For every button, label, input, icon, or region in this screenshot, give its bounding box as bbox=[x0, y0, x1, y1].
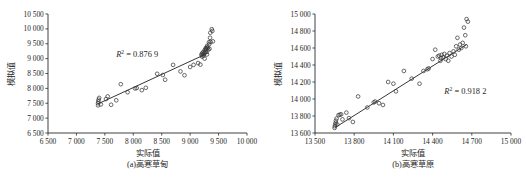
r-squared-annotation: R2 = 0.876 9 bbox=[115, 49, 158, 59]
x-axis-tick-label: 14 400 bbox=[422, 137, 443, 146]
x-axis-title: 实际值 bbox=[401, 148, 425, 158]
x-axis-tick-label: 8 000 bbox=[125, 137, 142, 146]
axis-spines bbox=[48, 14, 247, 133]
data-point bbox=[377, 101, 381, 105]
x-axis-tick-label: 9 500 bbox=[210, 137, 227, 146]
y-axis-tick-label: 10 500 bbox=[23, 10, 44, 19]
data-point bbox=[433, 48, 437, 52]
data-point bbox=[192, 63, 196, 67]
x-axis-tick-label: 14 700 bbox=[462, 137, 483, 146]
data-point bbox=[119, 82, 123, 86]
y-axis-tick-label: 13 800 bbox=[290, 112, 311, 121]
data-point bbox=[463, 33, 467, 37]
data-point bbox=[356, 95, 360, 99]
data-point bbox=[392, 82, 396, 86]
data-point bbox=[402, 69, 406, 73]
y-axis-tick-label: 14 800 bbox=[290, 27, 311, 36]
y-axis-tick-label: 14 600 bbox=[290, 44, 311, 53]
data-point bbox=[394, 90, 398, 94]
data-point bbox=[431, 57, 435, 61]
data-point bbox=[155, 72, 159, 76]
y-axis-tick-label: 9 000 bbox=[27, 54, 44, 63]
y-axis-tick-label: 14 200 bbox=[290, 78, 311, 87]
x-axis-tick-label: 10 000 bbox=[237, 137, 258, 146]
x-axis-title: 实际值 bbox=[136, 148, 160, 158]
axis-spines bbox=[315, 14, 511, 133]
data-point bbox=[454, 44, 458, 48]
y-axis-tick-label: 14 000 bbox=[290, 95, 311, 104]
data-point bbox=[163, 78, 167, 82]
x-axis-tick-label: 15 000 bbox=[501, 137, 522, 146]
data-point bbox=[462, 26, 466, 30]
trend-line bbox=[98, 53, 209, 104]
panel-caption: (a)高寒草甸 bbox=[127, 159, 168, 169]
figure-container: 6 5007 0007 5008 0008 5009 0009 50010 00… bbox=[0, 0, 526, 179]
data-point bbox=[109, 103, 113, 107]
data-point bbox=[183, 73, 187, 77]
data-point bbox=[144, 86, 148, 90]
y-axis-tick-label: 10 000 bbox=[23, 24, 44, 33]
y-axis-tick-label: 8 000 bbox=[27, 84, 44, 93]
x-axis-tick-label: 7 000 bbox=[68, 137, 85, 146]
panel-a: 6 5007 0007 5008 0008 5009 0009 50010 00… bbox=[0, 0, 263, 179]
data-point bbox=[140, 88, 144, 92]
y-axis-tick-label: 8 500 bbox=[27, 69, 44, 78]
panel-b: 13 60013 80014 00014 20014 40014 60014 8… bbox=[263, 0, 526, 179]
x-axis-tick-label: 7 500 bbox=[97, 137, 114, 146]
x-axis-tick-label: 6 500 bbox=[40, 137, 57, 146]
data-point bbox=[386, 80, 390, 84]
data-point bbox=[351, 120, 355, 124]
x-axis-tick-label: 13 500 bbox=[305, 137, 326, 146]
x-axis-tick-label: 14 100 bbox=[383, 137, 404, 146]
data-point bbox=[453, 53, 457, 57]
data-point bbox=[188, 65, 192, 69]
y-axis-tick-label: 9 500 bbox=[27, 39, 44, 48]
data-point bbox=[126, 90, 130, 94]
data-point bbox=[381, 103, 385, 107]
scatter-plot-a: 6 5007 0007 5008 0008 5009 0009 50010 00… bbox=[0, 0, 263, 179]
data-point bbox=[208, 36, 212, 40]
data-point bbox=[114, 98, 118, 102]
y-axis-tick-label: 14 400 bbox=[290, 61, 311, 70]
y-axis-tick-label: 7 500 bbox=[27, 99, 44, 108]
data-point bbox=[345, 111, 349, 115]
data-point bbox=[171, 63, 175, 67]
data-point bbox=[179, 70, 183, 74]
data-point bbox=[418, 82, 422, 86]
panel-caption: (b)高寒草原 bbox=[392, 159, 434, 169]
data-point bbox=[456, 36, 460, 40]
x-axis-tick-label: 8 500 bbox=[153, 137, 170, 146]
y-axis-tick-label: 15 000 bbox=[290, 10, 311, 19]
y-axis-tick-label: 7 000 bbox=[27, 114, 44, 123]
r-squared-annotation: R2 = 0.918 2 bbox=[443, 86, 486, 96]
data-point bbox=[211, 40, 215, 44]
y-axis-title: 模拟值 bbox=[6, 62, 16, 86]
x-axis-tick-label: 9 000 bbox=[182, 137, 199, 146]
scatter-plot-b: 13 60013 80014 00014 20014 40014 60014 8… bbox=[263, 0, 526, 179]
x-axis-tick-label: 13 800 bbox=[344, 137, 365, 146]
data-point bbox=[341, 118, 345, 122]
y-axis-title: 模拟值 bbox=[273, 62, 283, 86]
